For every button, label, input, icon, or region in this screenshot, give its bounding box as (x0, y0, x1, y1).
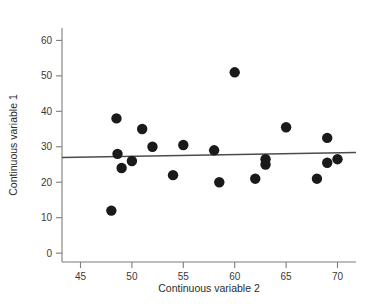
x-axis-title: Continuous variable 2 (158, 282, 260, 294)
data-point (112, 149, 122, 159)
data-point (147, 142, 157, 152)
y-tick-label: 30 (41, 141, 53, 152)
x-tick-label: 60 (229, 271, 241, 282)
x-axis-tick-labels: 455055606570 (75, 271, 344, 282)
data-point (332, 154, 342, 164)
data-point (116, 163, 126, 173)
trend-line (62, 152, 356, 157)
data-point (281, 122, 291, 132)
x-tick-label: 45 (75, 271, 87, 282)
data-point (312, 173, 322, 183)
data-point-group (106, 67, 343, 216)
y-axis-ticks (56, 40, 62, 253)
y-axis-title: Continuous variable 1 (7, 94, 19, 196)
data-point (137, 124, 147, 134)
y-axis-tick-labels: 0102030405060 (41, 35, 53, 259)
chart-canvas: 0102030405060 455055606570 Continuous va… (0, 0, 368, 307)
x-tick-label: 50 (126, 271, 138, 282)
y-tick-label: 50 (41, 70, 53, 81)
data-point (178, 140, 188, 150)
y-tick-label: 10 (41, 212, 53, 223)
data-point (322, 133, 332, 143)
x-tick-label: 65 (281, 271, 293, 282)
x-tick-label: 70 (332, 271, 344, 282)
data-point (229, 67, 239, 77)
x-tick-label: 55 (178, 271, 190, 282)
x-axis-ticks (81, 262, 338, 268)
y-tick-label: 0 (46, 248, 52, 259)
scatter-plot-figure: 0102030405060 455055606570 Continuous va… (0, 0, 368, 307)
data-point (214, 177, 224, 187)
data-point (111, 113, 121, 123)
y-tick-label: 20 (41, 177, 53, 188)
data-point (250, 173, 260, 183)
data-point (106, 205, 116, 215)
y-tick-label: 60 (41, 35, 53, 46)
axes-group (62, 28, 356, 262)
y-tick-label: 40 (41, 106, 53, 117)
data-point (209, 145, 219, 155)
data-point (168, 170, 178, 180)
data-point (260, 154, 270, 164)
data-point (322, 158, 332, 168)
data-point (127, 156, 137, 166)
